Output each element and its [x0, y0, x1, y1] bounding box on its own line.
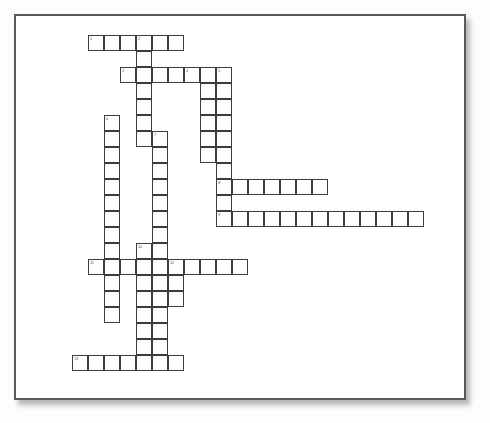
crossword-cell[interactable] — [360, 211, 376, 227]
crossword-cell[interactable]: 5 — [216, 67, 232, 83]
crossword-cell[interactable] — [136, 291, 152, 307]
crossword-cell[interactable] — [152, 67, 168, 83]
crossword-cell[interactable] — [280, 179, 296, 195]
crossword-cell[interactable] — [104, 35, 120, 51]
crossword-grid[interactable]: 12345678910111213 — [16, 16, 468, 402]
crossword-cell[interactable] — [328, 211, 344, 227]
crossword-cell[interactable]: 11 — [88, 259, 104, 275]
crossword-cell[interactable] — [200, 83, 216, 99]
crossword-cell[interactable] — [136, 115, 152, 131]
crossword-cell[interactable] — [280, 211, 296, 227]
crossword-cell[interactable]: 9 — [216, 211, 232, 227]
crossword-cell[interactable] — [296, 211, 312, 227]
crossword-cell[interactable] — [264, 211, 280, 227]
crossword-cell[interactable] — [216, 115, 232, 131]
crossword-cell[interactable] — [392, 211, 408, 227]
crossword-cell[interactable] — [296, 179, 312, 195]
crossword-cell[interactable] — [152, 275, 168, 291]
crossword-cell[interactable] — [152, 163, 168, 179]
crossword-cell[interactable] — [168, 355, 184, 371]
crossword-cell[interactable] — [104, 307, 120, 323]
crossword-cell[interactable] — [200, 131, 216, 147]
crossword-cell[interactable] — [152, 291, 168, 307]
crossword-cell[interactable] — [312, 179, 328, 195]
crossword-cell[interactable] — [232, 259, 248, 275]
crossword-cell[interactable] — [136, 259, 152, 275]
crossword-cell[interactable] — [136, 67, 152, 83]
crossword-cell[interactable] — [136, 307, 152, 323]
crossword-cell[interactable] — [200, 147, 216, 163]
crossword-cell[interactable] — [152, 243, 168, 259]
crossword-cell[interactable] — [136, 355, 152, 371]
crossword-cell[interactable]: 7 — [152, 131, 168, 147]
crossword-cell[interactable]: 1 — [88, 35, 104, 51]
crossword-cell[interactable] — [200, 67, 216, 83]
crossword-cell[interactable] — [344, 211, 360, 227]
crossword-cell[interactable] — [136, 51, 152, 67]
crossword-cell[interactable] — [376, 211, 392, 227]
crossword-cell[interactable] — [104, 195, 120, 211]
crossword-cell[interactable] — [200, 99, 216, 115]
crossword-cell[interactable] — [136, 99, 152, 115]
crossword-cell[interactable] — [152, 195, 168, 211]
crossword-cell[interactable] — [248, 211, 264, 227]
crossword-cell[interactable] — [152, 355, 168, 371]
crossword-cell[interactable] — [120, 35, 136, 51]
crossword-cell[interactable] — [104, 227, 120, 243]
crossword-cell[interactable] — [312, 211, 328, 227]
crossword-cell[interactable] — [104, 275, 120, 291]
crossword-cell[interactable] — [136, 275, 152, 291]
crossword-cell[interactable]: 6 — [104, 115, 120, 131]
crossword-cell[interactable] — [136, 323, 152, 339]
crossword-cell[interactable]: 10 — [136, 243, 152, 259]
crossword-cell[interactable] — [152, 147, 168, 163]
crossword-cell[interactable] — [104, 211, 120, 227]
crossword-cell[interactable] — [232, 211, 248, 227]
crossword-cell[interactable] — [232, 179, 248, 195]
crossword-cell[interactable] — [88, 355, 104, 371]
crossword-cell[interactable] — [200, 115, 216, 131]
crossword-cell[interactable]: 3 — [120, 67, 136, 83]
crossword-cell[interactable]: 2 — [136, 35, 152, 51]
crossword-cell[interactable] — [104, 147, 120, 163]
crossword-cell[interactable] — [152, 259, 168, 275]
crossword-cell[interactable] — [104, 259, 120, 275]
crossword-cell[interactable] — [104, 131, 120, 147]
crossword-cell[interactable] — [168, 291, 184, 307]
crossword-cell[interactable] — [216, 131, 232, 147]
crossword-cell[interactable] — [248, 179, 264, 195]
crossword-cell[interactable] — [216, 259, 232, 275]
crossword-cell[interactable] — [152, 339, 168, 355]
crossword-cell[interactable] — [120, 355, 136, 371]
crossword-cell[interactable] — [152, 179, 168, 195]
crossword-cell[interactable] — [168, 67, 184, 83]
crossword-cell[interactable] — [152, 323, 168, 339]
crossword-cell[interactable] — [264, 179, 280, 195]
crossword-cell[interactable] — [152, 211, 168, 227]
crossword-cell[interactable] — [152, 307, 168, 323]
crossword-cell[interactable] — [216, 83, 232, 99]
crossword-cell[interactable] — [136, 339, 152, 355]
crossword-cell[interactable] — [136, 131, 152, 147]
crossword-cell[interactable] — [216, 147, 232, 163]
crossword-cell[interactable] — [104, 355, 120, 371]
crossword-cell[interactable] — [120, 259, 136, 275]
crossword-cell[interactable] — [184, 259, 200, 275]
crossword-cell[interactable] — [136, 83, 152, 99]
crossword-cell[interactable] — [152, 227, 168, 243]
crossword-cell[interactable] — [104, 291, 120, 307]
crossword-cell[interactable] — [168, 275, 184, 291]
crossword-cell[interactable] — [216, 195, 232, 211]
crossword-cell[interactable]: 8 — [216, 179, 232, 195]
crossword-cell[interactable] — [104, 163, 120, 179]
crossword-cell[interactable]: 13 — [72, 355, 88, 371]
crossword-cell[interactable] — [216, 99, 232, 115]
crossword-cell[interactable] — [104, 243, 120, 259]
crossword-cell[interactable]: 12 — [168, 259, 184, 275]
crossword-cell[interactable]: 4 — [184, 67, 200, 83]
crossword-cell[interactable] — [200, 259, 216, 275]
crossword-cell[interactable] — [168, 35, 184, 51]
crossword-cell[interactable] — [408, 211, 424, 227]
crossword-cell[interactable] — [216, 163, 232, 179]
crossword-cell[interactable] — [104, 179, 120, 195]
